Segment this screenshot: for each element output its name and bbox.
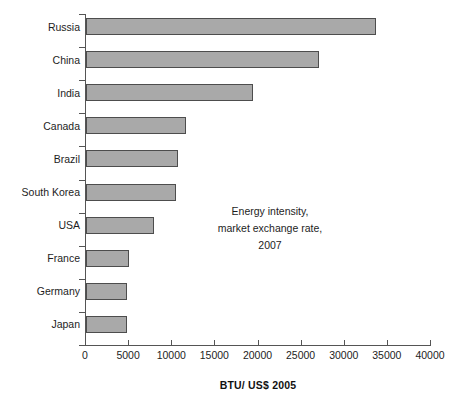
category-label: Japan xyxy=(0,318,80,330)
y-tick-mark xyxy=(79,312,85,313)
bar xyxy=(86,316,127,333)
x-tick-mark xyxy=(387,340,388,346)
x-tick-mark xyxy=(214,340,215,346)
bar xyxy=(86,184,176,201)
bar-row: Brazil xyxy=(0,146,449,179)
y-tick-mark xyxy=(79,146,85,147)
y-tick-mark xyxy=(79,213,85,214)
x-tick-mark xyxy=(344,340,345,346)
chart-annotation: Energy intensity, market exchange rate, … xyxy=(170,203,370,254)
y-tick-mark xyxy=(79,47,85,48)
bar xyxy=(86,283,127,300)
y-tick-mark xyxy=(79,180,85,181)
bar-row: India xyxy=(0,80,449,113)
bar-chart: RussiaChinaIndiaCanadaBrazilSouth KoreaU… xyxy=(0,0,449,403)
category-label: Russia xyxy=(0,21,80,33)
bar-row: Canada xyxy=(0,113,449,146)
x-tick-mark xyxy=(171,340,172,346)
y-tick-mark xyxy=(79,113,85,114)
bar xyxy=(86,117,186,134)
y-tick-mark xyxy=(79,14,85,15)
annotation-line-3: 2007 xyxy=(170,237,370,254)
bar-row: Russia xyxy=(0,14,449,47)
y-tick-mark xyxy=(79,246,85,247)
y-tick-mark xyxy=(79,279,85,280)
x-axis-title: BTU/ US$ 2005 xyxy=(85,379,431,391)
bar xyxy=(86,150,178,167)
x-tick-mark xyxy=(85,340,86,346)
category-label: France xyxy=(0,252,80,264)
annotation-line-2: market exchange rate, xyxy=(170,220,370,237)
bar-row: China xyxy=(0,47,449,80)
x-tick-mark xyxy=(430,340,431,346)
category-label: China xyxy=(0,54,80,66)
x-tick-mark xyxy=(301,340,302,346)
category-label: Brazil xyxy=(0,153,80,165)
category-label: USA xyxy=(0,219,80,231)
bar xyxy=(86,250,129,267)
bar xyxy=(86,217,154,234)
annotation-line-1: Energy intensity, xyxy=(170,203,370,220)
category-label: Germany xyxy=(0,285,80,297)
y-tick-mark xyxy=(79,80,85,81)
bar-row: Japan xyxy=(0,312,449,345)
bar-row: Germany xyxy=(0,279,449,312)
x-tick-mark xyxy=(128,340,129,346)
bar xyxy=(86,18,376,35)
bar xyxy=(86,51,319,68)
x-tick-mark xyxy=(258,340,259,346)
x-tick-label: 40000 xyxy=(400,349,449,361)
bar xyxy=(86,84,253,101)
category-label: India xyxy=(0,87,80,99)
category-label: Canada xyxy=(0,120,80,132)
category-label: South Korea xyxy=(0,186,80,198)
